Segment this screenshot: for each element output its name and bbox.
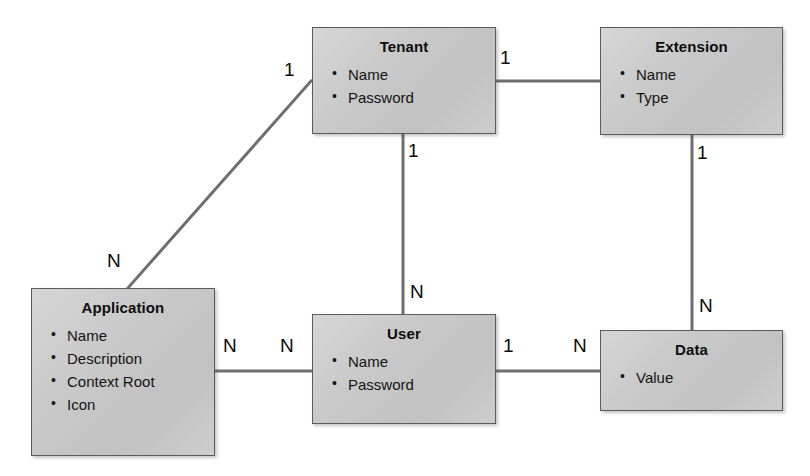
cardinality-label-extension-data-n: N: [699, 296, 713, 315]
cardinality-label-tenant-application-1: 1: [284, 60, 295, 79]
attribute-list-tenant: Name Password: [313, 54, 495, 109]
entity-title-tenant: Tenant: [313, 28, 495, 54]
entity-user[interactable]: User Name Password: [312, 314, 496, 424]
attribute-list-extension: Name Type: [601, 54, 782, 109]
entity-title-application: Application: [32, 289, 214, 315]
cardinality-label-tenant-user-1: 1: [408, 141, 419, 160]
entity-data[interactable]: Data Value: [600, 330, 783, 411]
attribute-item: Type: [620, 86, 782, 109]
entity-extension[interactable]: Extension Name Type: [600, 27, 783, 135]
attribute-list-data: Value: [601, 357, 782, 389]
cardinality-label-tenant-user-n: N: [410, 282, 424, 301]
attribute-item: Name: [332, 63, 495, 86]
attribute-list-user: Name Password: [313, 341, 495, 396]
cardinality-label-extension-data-1: 1: [697, 143, 708, 162]
attribute-item: Icon: [51, 393, 214, 416]
entity-title-extension: Extension: [601, 28, 782, 54]
entity-title-user: User: [313, 315, 495, 341]
attribute-item: Name: [620, 63, 782, 86]
er-diagram-canvas: Tenant Name Password Extension Name Type…: [0, 0, 810, 476]
attribute-item: Name: [332, 350, 495, 373]
edge-tenant-application: [127, 81, 311, 289]
attribute-item: Description: [51, 347, 214, 370]
attribute-item: Password: [332, 373, 495, 396]
entity-application[interactable]: Application Name Description Context Roo…: [31, 288, 215, 456]
cardinality-label-user-data-1: 1: [503, 336, 514, 355]
attribute-item: Value: [620, 366, 782, 389]
attribute-item: Name: [51, 324, 214, 347]
attribute-list-application: Name Description Context Root Icon: [32, 315, 214, 416]
entity-tenant[interactable]: Tenant Name Password: [312, 27, 496, 134]
attribute-item: Password: [332, 86, 495, 109]
cardinality-label-application-user-n-left: N: [223, 336, 237, 355]
attribute-item: Context Root: [51, 370, 214, 393]
entity-title-data: Data: [601, 331, 782, 357]
cardinality-label-user-data-n: N: [573, 336, 587, 355]
cardinality-label-tenant-extension-1: 1: [500, 48, 511, 67]
cardinality-label-tenant-application-n: N: [107, 251, 121, 270]
cardinality-label-application-user-n-right: N: [280, 336, 294, 355]
